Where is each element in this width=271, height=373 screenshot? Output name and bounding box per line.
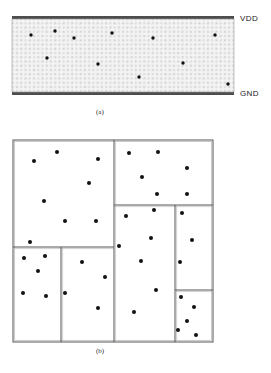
cell-dot [117, 244, 121, 248]
cell-dot [156, 150, 160, 154]
cell-dot [152, 208, 156, 212]
cell-dot [96, 62, 99, 65]
figure-a-caption: (a) [96, 108, 104, 116]
cell-dot [137, 75, 140, 78]
cell-dot [151, 36, 154, 39]
cell-dot [96, 157, 100, 161]
cell-dot [42, 199, 46, 203]
cell-dot [180, 211, 184, 215]
cell-dot [176, 328, 180, 332]
figure-page: VDD GND (a) (b) [0, 0, 271, 373]
gnd-rail-label: GND [240, 89, 259, 98]
cell-dot [44, 294, 48, 298]
cell-dot [154, 288, 158, 292]
cell-dot [194, 333, 198, 337]
cell-dot [94, 219, 98, 223]
cell-dot [179, 295, 183, 299]
cell-dot [87, 181, 91, 185]
cell-dot [103, 275, 107, 279]
vdd-rail-label: VDD [240, 14, 258, 23]
cell-dot [110, 31, 113, 34]
cell-dot [96, 306, 100, 310]
gnd-rail-bar [12, 92, 234, 95]
cell-dot [139, 259, 143, 263]
cell-dot [63, 219, 67, 223]
cell-dot [132, 310, 136, 314]
cell-dot [185, 166, 189, 170]
cell-dot [21, 291, 25, 295]
cell-dot [140, 175, 144, 179]
figure-b-caption: (b) [96, 347, 104, 355]
cell-dot [190, 238, 194, 242]
cell-dot [213, 33, 216, 36]
cell-dot [155, 192, 159, 196]
figure-b [13, 140, 213, 342]
cell-dot [192, 305, 196, 309]
cell-dot [80, 260, 84, 264]
cell-dot [32, 159, 36, 163]
cell-dot [149, 236, 153, 240]
cell-dot [226, 82, 229, 85]
cell-dot [45, 56, 48, 59]
cell-dot [53, 29, 56, 32]
cell-dot [72, 36, 75, 39]
floorplan-outline [13, 140, 213, 342]
cell-dot [185, 192, 189, 196]
cell-dot [29, 33, 32, 36]
cell-dot [178, 260, 182, 264]
cell-dot [185, 319, 189, 323]
figure-a [12, 16, 234, 95]
cell-dot [127, 151, 131, 155]
cell-dot [22, 256, 26, 260]
cell-dot [28, 240, 32, 244]
stippled-well-region [12, 19, 234, 92]
cell-dot [181, 61, 184, 64]
cell-dot [55, 150, 59, 154]
cell-dot [63, 291, 67, 295]
cell-dot [124, 214, 128, 218]
vdd-rail-bar [12, 16, 234, 19]
figure-canvas [0, 0, 271, 373]
cell-dot [36, 269, 40, 273]
cell-dot [43, 254, 47, 258]
